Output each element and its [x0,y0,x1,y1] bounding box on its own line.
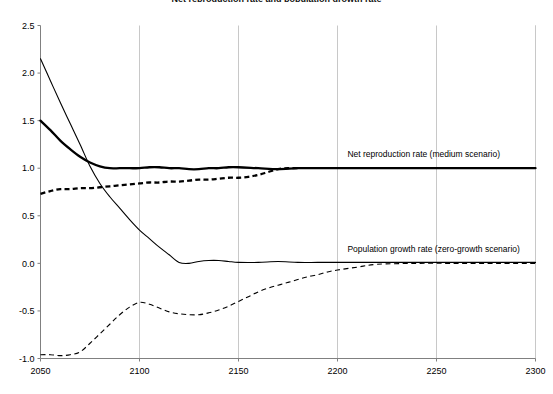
net-reproduction-rate-label: Net reproduction rate (medium scenario) [347,149,500,159]
y-axis-tick-label: 0.0 [22,259,35,269]
y-axis-tick-label: -1.0 [19,354,35,364]
data-series-group [41,59,536,356]
series-line-2 [41,59,536,264]
x-axis-tick-label: 2100 [129,366,149,376]
x-axis-tick-label: 2300 [525,366,545,376]
series-line-1 [41,168,298,194]
chart-plot-area: 2.52.01.51.00.50.0-0.5-1.0 2050210021502… [0,0,553,394]
x-axis-tick-label: 2150 [228,366,248,376]
y-axis-tick-labels: 2.52.01.51.00.50.0-0.5-1.0 [19,21,41,364]
y-axis-tick-label: 2.5 [22,21,35,31]
x-axis-tick-label: 2050 [30,366,50,376]
x-axis-tick-label: 2200 [327,366,347,376]
chart-container: Net reproduction rate and population gro… [0,0,553,394]
y-axis-tick-label: 1.5 [22,116,35,126]
y-axis-tick-label: 1.0 [22,163,35,173]
x-axis-tick-label: 2250 [426,366,446,376]
series-line-0 [41,121,536,170]
chart-title: Net reproduction rate and population gro… [0,0,553,2]
y-axis-tick-label: 2.0 [22,68,35,78]
y-axis-tick-label: -0.5 [19,306,35,316]
gridlines-group [140,26,536,359]
population-growth-rate-label: Population growth rate (zero-growth scen… [347,244,520,254]
series-line-3 [41,263,536,355]
axes-group [41,26,536,359]
x-axis-tick-labels: 205021002150220022502300 [30,359,545,376]
annotations-group: Net reproduction rate (medium scenario)P… [347,149,520,254]
y-axis-tick-label: 0.5 [22,211,35,221]
